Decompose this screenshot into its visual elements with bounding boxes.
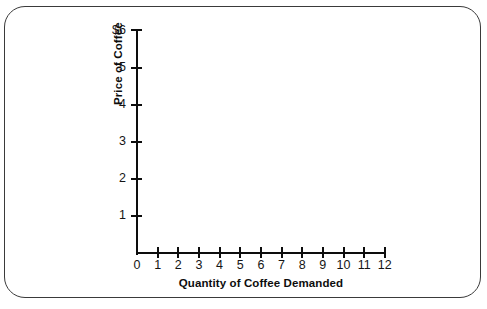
y-tick-mark xyxy=(131,104,142,106)
y-tick-mark xyxy=(131,215,142,217)
x-tick-mark xyxy=(281,247,283,258)
x-tick-mark xyxy=(198,247,200,258)
y-axis-title: Price of Coffee xyxy=(112,22,124,105)
x-axis-title: Quantity of Coffee Demanded xyxy=(136,277,386,289)
x-tick-mark xyxy=(322,247,324,258)
x-tick-mark xyxy=(363,247,365,258)
plot-area[interactable] xyxy=(138,30,386,252)
x-tick-mark xyxy=(177,247,179,258)
y-tick-label: 3 xyxy=(86,135,126,148)
y-tick-mark xyxy=(131,178,142,180)
x-tick-mark xyxy=(157,247,159,258)
y-tick-mark xyxy=(131,67,142,69)
y-tick-label: 1 xyxy=(86,209,126,222)
x-tick-mark xyxy=(260,247,262,258)
x-tick-mark xyxy=(301,247,303,258)
chart-screenshot: 12345$6 0123456789101112 Price of Coffee… xyxy=(0,0,487,309)
y-tick-label: 2 xyxy=(86,172,126,185)
y-tick-mark xyxy=(131,141,142,143)
x-tick-mark xyxy=(219,247,221,258)
x-tick-mark xyxy=(384,247,386,258)
coffee-demand-chart: 12345$6 0123456789101112 Price of Coffee… xyxy=(0,0,487,309)
x-tick-label: 12 xyxy=(372,259,398,272)
y-tick-mark xyxy=(131,29,142,31)
x-tick-mark xyxy=(343,247,345,258)
x-tick-mark xyxy=(239,247,241,258)
